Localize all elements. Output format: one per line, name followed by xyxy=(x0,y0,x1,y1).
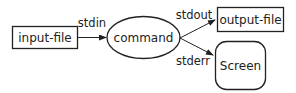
input-file-label: input-file xyxy=(18,32,71,44)
stdout-label: stdout xyxy=(176,10,213,22)
screen-label: Screen xyxy=(220,60,261,72)
stdout-arrow xyxy=(180,20,215,38)
io-redirection-diagram: input-file stdin command stdout stderr o… xyxy=(0,0,296,93)
command-label: command xyxy=(114,32,174,44)
stdin-label: stdin xyxy=(78,18,106,30)
stderr-arrow xyxy=(180,38,213,55)
output-file-label: output-file xyxy=(219,14,281,26)
stderr-label: stderr xyxy=(176,56,210,68)
